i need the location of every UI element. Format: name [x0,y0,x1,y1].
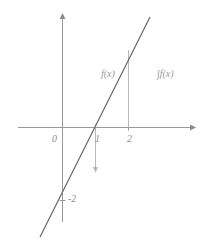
y-axis-arrow-icon [60,13,66,19]
x-axis-arrow-icon [190,125,196,131]
plot-canvas [0,0,203,241]
function-annotation-fx: f(x) [101,69,115,79]
integral-annotation-fx: ∫f(x) [157,69,174,79]
x-axis-tick-label-0: 0 [52,134,57,144]
vertical-guide-x1-arrow-icon [93,167,98,173]
y-axis-tick-label-neg2: -2 [68,194,76,204]
x-axis-tick-label-1: 1 [95,134,100,144]
function-graph-figure: 0 1 2 -2 f(x) ∫f(x) [0,0,203,241]
x-axis-tick-label-2: 2 [127,134,132,144]
